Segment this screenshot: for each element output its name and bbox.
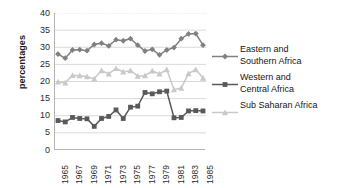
- data-point-marker: [223, 82, 228, 87]
- data-point-marker: [98, 67, 104, 73]
- y-axis-tick-label: 25: [28, 60, 50, 69]
- data-point-marker: [56, 118, 61, 123]
- diamond-marker-icon: [212, 47, 238, 56]
- data-point-marker: [55, 51, 61, 57]
- y-axis-tick-label: 30: [28, 43, 50, 52]
- data-point-marker: [150, 91, 155, 96]
- data-point-marker: [193, 108, 198, 113]
- plot-area: [54, 13, 205, 150]
- x-axis-tick-label: 1977: [148, 165, 157, 184]
- data-point-marker: [128, 105, 133, 110]
- data-point-marker: [63, 120, 68, 125]
- legend-item[interactable]: Sub Saharan Africa: [212, 100, 345, 112]
- data-point-marker: [77, 116, 82, 121]
- x-axis-tick-label: 1965: [61, 165, 70, 184]
- y-axis-tick-label: 0: [28, 146, 50, 155]
- x-axis-tick-label: 1973: [119, 165, 128, 184]
- chart-legend: Eastern and Southern AfricaWestern and C…: [212, 44, 345, 117]
- legend-item-label: Sub Saharan Africa: [240, 100, 345, 112]
- legend-item[interactable]: Eastern and Southern Africa: [212, 44, 345, 67]
- data-point-marker: [121, 116, 126, 121]
- data-point-marker: [99, 40, 105, 46]
- data-point-marker: [135, 104, 140, 109]
- data-point-marker: [120, 38, 126, 44]
- series-0: [55, 31, 206, 61]
- data-point-marker: [201, 109, 206, 114]
- x-axis-tick-label: 1971: [104, 165, 113, 184]
- y-axis-tick-label: 35: [28, 26, 50, 35]
- series-2: [55, 65, 206, 92]
- data-point-marker: [106, 114, 111, 119]
- data-point-marker: [185, 71, 191, 77]
- square-marker-icon: [212, 75, 238, 84]
- data-point-marker: [114, 108, 119, 113]
- y-axis-tick-label: 40: [28, 9, 50, 18]
- data-point-marker: [222, 54, 228, 60]
- data-point-marker: [99, 116, 104, 121]
- data-point-marker: [164, 66, 170, 72]
- y-axis-tick-label: 20: [28, 77, 50, 86]
- x-axis-tick-label: 1979: [162, 165, 171, 184]
- legend-item-label: Western and Central Africa: [240, 72, 345, 95]
- data-point-marker: [186, 109, 191, 114]
- series-1: [56, 89, 206, 129]
- x-axis-tick-label: 1969: [90, 165, 99, 184]
- y-axis-tick-label: 10: [28, 111, 50, 120]
- data-point-marker: [157, 89, 162, 94]
- chart-container: percentages 0510152025303540 19651967196…: [0, 0, 345, 188]
- legend-item[interactable]: Western and Central Africa: [212, 72, 345, 95]
- y-axis-tick-label: 5: [28, 128, 50, 137]
- x-axis-tick-label: 1967: [75, 165, 84, 184]
- data-point-marker: [193, 66, 199, 72]
- data-point-marker: [92, 124, 97, 129]
- data-point-marker: [85, 116, 90, 121]
- y-axis-tick-label: 15: [28, 94, 50, 103]
- y-axis-tick-labels: 0510152025303540: [28, 0, 50, 188]
- x-axis-tick-labels: 1965196719691971197319751977197919811983…: [54, 150, 205, 188]
- data-point-marker: [164, 89, 169, 94]
- legend-item-label: Eastern and Southern Africa: [240, 44, 345, 67]
- data-point-marker: [179, 115, 184, 120]
- x-axis-tick-label: 1985: [206, 165, 215, 184]
- x-axis-tick-label: 1975: [133, 165, 142, 184]
- x-axis-tick-label: 1981: [177, 165, 186, 184]
- x-axis-tick-label: 1983: [191, 165, 200, 184]
- y-axis-title: percentages: [17, 7, 27, 117]
- data-point-marker: [70, 115, 75, 120]
- data-point-marker: [77, 47, 83, 53]
- data-point-marker: [172, 115, 177, 120]
- data-point-marker: [149, 68, 155, 74]
- data-point-marker: [143, 90, 148, 95]
- triangle-marker-icon: [212, 103, 238, 112]
- plot-svg: [55, 13, 206, 150]
- data-point-marker: [113, 65, 119, 71]
